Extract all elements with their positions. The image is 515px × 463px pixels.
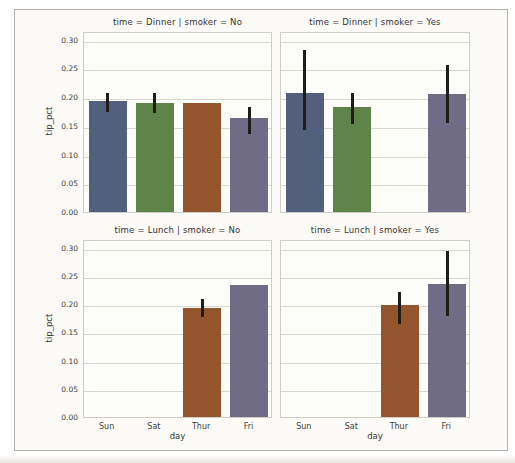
figure-photo: time = Dinner | smoker = No time = Dinne… xyxy=(0,0,515,463)
error-bar-sat xyxy=(351,93,354,124)
gridline xyxy=(281,250,469,251)
x-tick-label-thur: Thur xyxy=(181,422,221,431)
x-axis-label-left: day xyxy=(83,431,272,441)
error-bar-thur xyxy=(398,292,401,324)
facet-panel-dinner-yes xyxy=(280,32,470,213)
y-tick-label: 0.20 xyxy=(51,93,78,102)
x-tick-label-sun: Sun xyxy=(284,422,324,431)
x-axis-label-right: day xyxy=(280,431,470,441)
error-bar-sat xyxy=(153,93,156,113)
facet-title-dinner-yes: time = Dinner | smoker = Yes xyxy=(280,17,470,27)
y-tick-label: 0.15 xyxy=(51,328,78,337)
y-tick-label: 0.05 xyxy=(51,385,78,394)
facet-panel-dinner-no xyxy=(83,32,272,213)
gridline xyxy=(84,99,271,100)
bar-fri xyxy=(230,285,268,417)
gridline xyxy=(281,70,469,71)
y-tick-label: 0.05 xyxy=(51,179,78,188)
y-tick-label: 0.10 xyxy=(51,151,78,160)
y-tick-label: 0.30 xyxy=(51,244,78,253)
y-tick-label: 0.00 xyxy=(51,413,78,422)
y-tick-label: 0.30 xyxy=(51,36,78,45)
y-tick-label: 0.20 xyxy=(51,300,78,309)
facet-title-lunch-no: time = Lunch | smoker = No xyxy=(83,225,272,235)
facet-title-lunch-yes: time = Lunch | smoker = Yes xyxy=(280,225,470,235)
gridline xyxy=(281,278,469,279)
error-bar-thur xyxy=(201,299,204,318)
gridline xyxy=(84,278,271,279)
y-tick-label: 0.00 xyxy=(51,208,78,217)
error-bar-fri xyxy=(446,65,449,124)
error-bar-fri xyxy=(248,107,251,135)
x-tick-label-sat: Sat xyxy=(134,422,174,431)
error-bar-sun xyxy=(106,93,109,111)
facet-title-dinner-no: time = Dinner | smoker = No xyxy=(83,17,272,27)
x-tick-label-thur: Thur xyxy=(379,422,419,431)
bar-sun xyxy=(89,101,127,212)
x-tick-label-sat: Sat xyxy=(331,422,371,431)
x-tick-label-fri: Fri xyxy=(228,422,268,431)
bar-sat xyxy=(136,103,174,212)
y-tick-label: 0.15 xyxy=(51,122,78,131)
error-bar-sun xyxy=(303,50,306,130)
error-bar-fri xyxy=(446,251,449,317)
y-tick-label: 0.25 xyxy=(51,64,78,73)
y-tick-label: 0.10 xyxy=(51,357,78,366)
gridline xyxy=(281,42,469,43)
gridline xyxy=(84,250,271,251)
page-edge-shadow xyxy=(0,455,515,463)
gridline xyxy=(84,42,271,43)
gridline xyxy=(84,70,271,71)
bar-thur xyxy=(183,103,221,212)
facet-panel-lunch-no xyxy=(83,240,272,418)
bar-thur xyxy=(183,308,221,417)
x-tick-label-fri: Fri xyxy=(426,422,466,431)
facet-panel-lunch-yes xyxy=(280,240,470,418)
x-tick-label-sun: Sun xyxy=(87,422,127,431)
y-tick-label: 0.25 xyxy=(51,272,78,281)
